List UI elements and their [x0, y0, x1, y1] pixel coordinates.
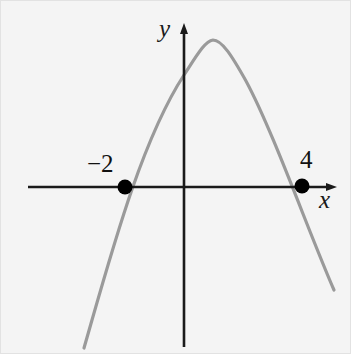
x-axis-label: x — [319, 187, 330, 212]
point-marker-root-left — [118, 180, 133, 195]
y-axis-label: y — [159, 16, 170, 41]
point-marker-root-right — [295, 179, 310, 194]
x-intercept-right-label: 4 — [300, 147, 313, 172]
plot-canvas — [1, 1, 351, 354]
parabola-curve — [84, 40, 334, 348]
x-intercept-left-label: −2 — [87, 151, 114, 176]
parabola-figure: y x −2 4 — [0, 0, 351, 354]
